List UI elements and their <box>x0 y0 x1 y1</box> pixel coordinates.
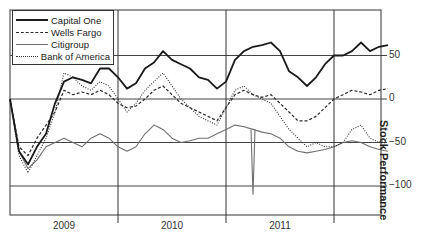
series-line-bank-of-america <box>10 73 388 173</box>
legend-label: Bank of America <box>41 51 110 62</box>
y-tick-label: −100 <box>389 179 412 190</box>
legend-item: Bank of America <box>16 50 110 62</box>
legend-item: Capital One <box>16 14 110 26</box>
series-line-citigroup <box>10 99 388 169</box>
citigroup-spike <box>251 129 255 194</box>
legend-item: Citigroup <box>16 38 110 50</box>
stock-performance-chart: Capital OneWells FargoCitigroupBank of A… <box>0 0 427 241</box>
series-line-wells-fargo <box>10 86 388 156</box>
y-tick-label: −50 <box>389 136 406 147</box>
legend-swatch <box>16 19 48 21</box>
legend-swatch <box>16 32 48 33</box>
legend-label: Citigroup <box>51 39 89 50</box>
y-tick-label: 50 <box>389 49 400 60</box>
x-tick-label: 2010 <box>142 220 202 231</box>
legend-label: Wells Fargo <box>51 27 102 38</box>
y-tick-label: 0 <box>389 92 395 103</box>
x-tick-label: 2009 <box>34 220 94 231</box>
legend-label: Capital One <box>51 15 101 26</box>
x-tick-label: 2011 <box>250 220 310 231</box>
legend-swatch <box>16 56 38 57</box>
legend: Capital OneWells FargoCitigroupBank of A… <box>12 10 114 65</box>
legend-item: Wells Fargo <box>16 26 110 38</box>
legend-swatch <box>16 44 48 45</box>
y-axis-label: Stock Performance <box>378 120 390 220</box>
